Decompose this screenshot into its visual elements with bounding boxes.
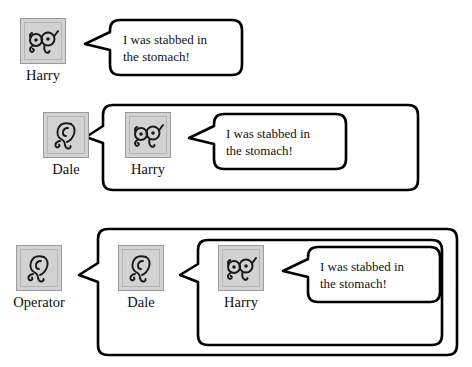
ear-icon — [118, 245, 164, 291]
glasses-face-icon — [218, 245, 264, 291]
actor-label: Harry — [212, 294, 270, 310]
ear-glyph — [49, 118, 83, 152]
actor-label: Dale — [112, 294, 170, 310]
actor-dale-row3: Dale — [112, 245, 170, 310]
actor-harry-row2: Harry — [119, 112, 177, 177]
actor-harry-row1: Harry — [14, 18, 72, 83]
bubble-text-row1: I was stabbed in the stomach! — [123, 31, 207, 65]
actor-operator-row3: Operator — [10, 245, 68, 310]
glasses-face-glyph — [131, 118, 165, 152]
bubble-text-row2: I was stabbed in the stomach! — [226, 125, 310, 159]
ear-icon — [43, 112, 89, 158]
glasses-face-glyph — [224, 251, 258, 285]
ear-glyph — [124, 251, 158, 285]
actor-label: Harry — [119, 161, 177, 177]
actor-label: Harry — [14, 67, 72, 83]
glasses-face-icon — [20, 18, 66, 64]
actor-label: Operator — [10, 294, 68, 310]
ear-glyph — [22, 251, 56, 285]
glasses-face-glyph — [26, 24, 60, 58]
actor-label: Dale — [37, 161, 95, 177]
actor-dale-row2: Dale — [37, 112, 95, 177]
actor-harry-row3: Harry — [212, 245, 270, 310]
glasses-face-icon — [125, 112, 171, 158]
ear-icon — [16, 245, 62, 291]
bubble-text-row3: I was stabbed in the stomach! — [320, 258, 404, 292]
diagram-canvas: Harry I was stabbed in the stomach! Dale — [0, 0, 472, 367]
